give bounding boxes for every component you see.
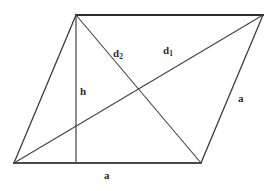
diagonal-d1-label-subscript: 1 xyxy=(169,49,173,58)
diagonal-d2-label-subscript: 2 xyxy=(119,52,123,61)
diagonal-d2-line xyxy=(76,15,201,163)
edge-right xyxy=(201,15,263,163)
side-right-label: a xyxy=(238,93,244,104)
parallelogram-diagram: d2 d1 h a a xyxy=(0,0,277,191)
edge-left xyxy=(14,15,76,163)
diagram-canvas xyxy=(0,0,277,191)
height-label: h xyxy=(80,86,86,97)
diagonal-d1-label: d1 xyxy=(163,45,173,56)
diagonal-d2-label: d2 xyxy=(113,48,123,59)
side-bottom-label: a xyxy=(104,170,110,181)
